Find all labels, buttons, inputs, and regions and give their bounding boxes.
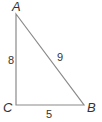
side-label-ac: 8 [8, 54, 14, 66]
side-label-cb: 5 [46, 108, 52, 120]
side-label-ab: 9 [57, 51, 63, 63]
vertex-label-b: B [87, 100, 96, 115]
vertex-label-a: A [11, 0, 21, 14]
triangle-abc [16, 14, 84, 105]
vertex-label-c: C [3, 100, 13, 115]
triangle-diagram: A C B 8 9 5 [0, 0, 102, 122]
